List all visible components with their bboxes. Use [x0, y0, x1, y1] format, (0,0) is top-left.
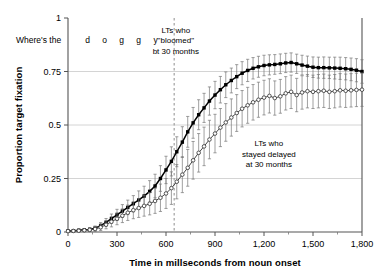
bloomed-group-label: LTs who"bloomed"bt 30 months [153, 26, 199, 56]
data-point [300, 91, 304, 95]
data-point [191, 121, 194, 124]
data-point [333, 89, 337, 93]
annotation-line: "bloomed" [158, 36, 195, 45]
data-point [186, 130, 189, 133]
data-point [306, 89, 310, 93]
data-point [246, 69, 249, 72]
data-point [121, 214, 125, 218]
y-tick-label: 1 [56, 13, 61, 23]
data-point [311, 90, 315, 94]
data-point [246, 104, 250, 108]
stimulus-letter: d [85, 35, 90, 45]
stimulus-letter: g [136, 35, 141, 45]
data-point [279, 62, 282, 65]
data-point [164, 168, 167, 171]
data-point [344, 67, 347, 70]
data-point [142, 204, 146, 208]
data-point [355, 69, 358, 72]
data-point [224, 121, 228, 125]
data-point [344, 89, 348, 93]
data-point [311, 66, 314, 69]
data-point [273, 63, 276, 66]
data-point [235, 75, 238, 78]
data-point [349, 68, 352, 71]
data-point [235, 111, 239, 115]
y-tick-label: 0 [56, 227, 61, 237]
stimulus-letter: o [102, 35, 107, 45]
data-point [72, 229, 76, 233]
data-point [110, 220, 114, 224]
data-point [219, 88, 222, 91]
data-point [262, 64, 265, 67]
data-point [159, 196, 163, 200]
data-point [355, 88, 359, 92]
y-axis: 00.250.50.751 [43, 13, 68, 237]
data-point [66, 229, 70, 233]
data-point [289, 61, 292, 64]
data-point [191, 159, 195, 163]
data-point [279, 95, 283, 99]
data-point [322, 89, 326, 93]
data-point [208, 138, 212, 142]
data-point [268, 94, 272, 98]
data-point [224, 83, 227, 86]
data-point [306, 64, 309, 67]
series-markers [66, 88, 364, 233]
data-point [170, 186, 174, 190]
annotation-line: at 30 months [246, 160, 292, 169]
data-point [360, 88, 364, 92]
data-point [289, 90, 293, 94]
data-point [300, 63, 303, 66]
x-tick-label: 1,500 [302, 239, 325, 249]
stimulus-letter: y [153, 35, 158, 45]
data-point [115, 217, 119, 221]
data-point [240, 72, 243, 75]
data-point [170, 160, 173, 163]
data-point [333, 66, 336, 69]
data-point [186, 166, 190, 170]
stimulus-letter: g [119, 35, 124, 45]
x-tick-label: 300 [109, 239, 124, 249]
data-point [295, 93, 299, 97]
data-point [88, 228, 92, 232]
x-tick-label: 1,800 [351, 239, 374, 249]
y-tick-label: 0.75 [43, 67, 61, 77]
carrier-phrase: Where's the [16, 35, 61, 45]
data-point [164, 192, 168, 196]
annotation-line: stayed delayed [242, 150, 296, 159]
annotation-line: bt 30 months [153, 47, 199, 56]
y-tick-label: 0.5 [48, 120, 61, 130]
data-point [181, 140, 184, 143]
data-point [104, 223, 108, 227]
series-line [68, 90, 362, 231]
data-point [317, 66, 320, 69]
proportion-target-fixation-chart: 00.250.50.75103006009001,2001,5001,800Ti… [0, 0, 383, 275]
x-tick-label: 0 [65, 239, 70, 249]
data-point [99, 225, 103, 229]
data-point [137, 206, 141, 210]
data-point [202, 106, 205, 109]
chart-figure: 00.250.50.75103006009001,2001,5001,800Ti… [0, 0, 383, 275]
delayed-group-label: LTs whostayed delayedat 30 months [242, 139, 296, 169]
data-point [230, 116, 234, 120]
data-point [197, 151, 201, 155]
y-tick-label: 0.25 [43, 174, 61, 184]
x-tick-label: 900 [207, 239, 222, 249]
data-point [251, 101, 255, 105]
data-point [153, 184, 156, 187]
data-point [148, 202, 152, 206]
data-point [208, 99, 211, 102]
data-point [230, 79, 233, 82]
data-point [322, 66, 325, 69]
data-point [295, 62, 298, 65]
x-axis: 03006009001,2001,5001,800 [65, 232, 373, 249]
data-point [175, 180, 179, 184]
data-point [197, 113, 200, 116]
data-point [273, 96, 277, 100]
data-point [284, 61, 287, 64]
data-point [240, 107, 244, 111]
data-point [338, 89, 342, 93]
data-point [213, 132, 217, 136]
data-point [268, 63, 271, 66]
data-point [251, 67, 254, 70]
